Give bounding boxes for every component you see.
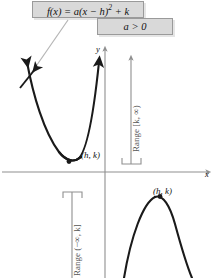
top-panel-axes — [2, 48, 209, 278]
range-label-top: Range [k, ∞) — [131, 105, 141, 152]
upward-parabola-curve — [27, 62, 99, 164]
parabola-right-branch — [76, 62, 99, 160]
vertex-label-top: (h, k) — [81, 150, 100, 160]
sign-condition-callout: a > 0 — [97, 18, 173, 35]
vertex-point-top — [67, 159, 72, 164]
parabola-right-branch-bottom — [155, 197, 192, 278]
quadratic-graph-svg — [0, 0, 218, 278]
formula-text: f(x) = a(x − h)2 + k — [47, 3, 129, 17]
sign-condition-text: a > 0 — [124, 21, 147, 32]
parabola-left-branch — [27, 62, 81, 160]
figure-canvas: f(x) = a(x − h)2 + k a > 0 (h, k) (h, k)… — [0, 0, 218, 278]
x-axis-label: x — [205, 169, 209, 179]
range-label-bottom: Range (−∞, k] — [72, 224, 82, 276]
y-axis-label: y — [96, 44, 100, 54]
formula-callout: f(x) = a(x − h)2 + k — [32, 1, 144, 18]
parabola-left-branch-bottom — [124, 197, 155, 278]
callout-leader-line — [20, 20, 68, 88]
vertex-label-bottom: (h, k) — [153, 186, 172, 196]
downward-parabola-curve — [124, 194, 192, 278]
